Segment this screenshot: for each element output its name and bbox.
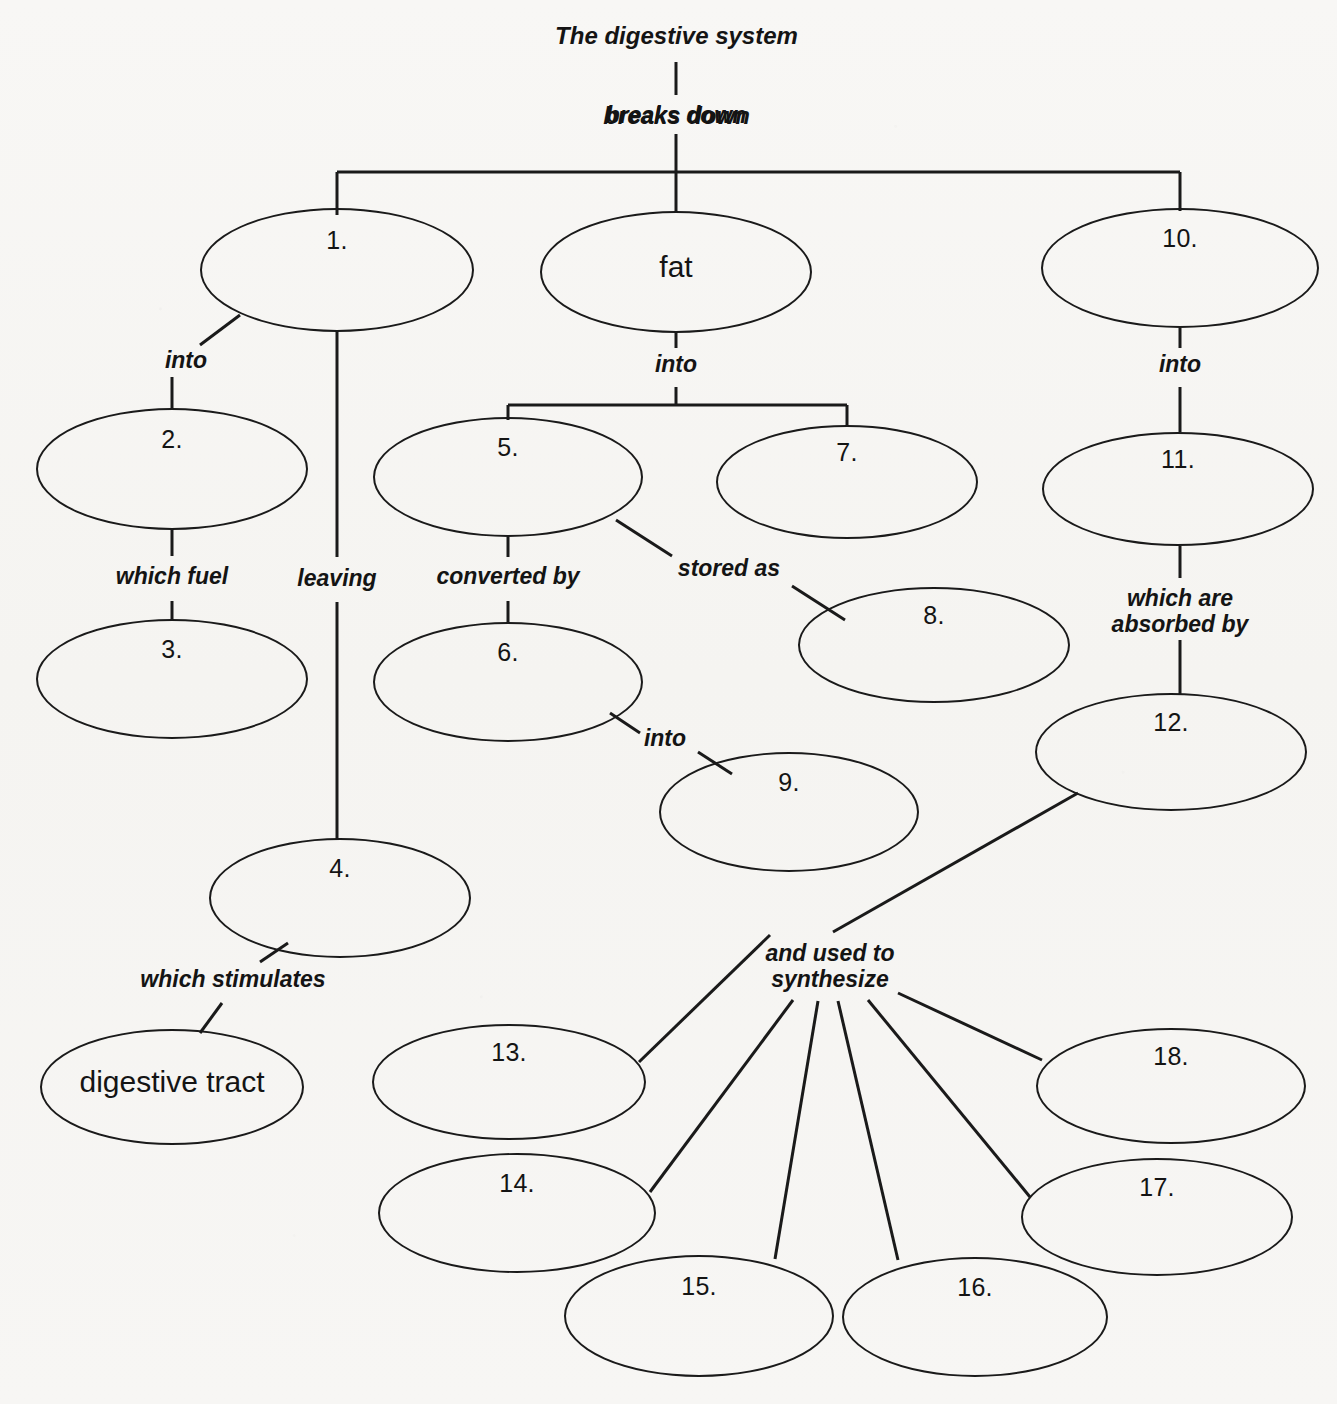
node-label-n14: 14. xyxy=(380,1169,654,1198)
root-title: The digestive system xyxy=(0,22,1337,50)
node-label-n10: 10. xyxy=(1043,224,1317,253)
link-label-l_stimulates: which stimulates xyxy=(140,967,325,993)
node-n12[interactable]: 12. xyxy=(1035,693,1307,811)
node-n10[interactable]: 10. xyxy=(1041,208,1319,328)
node-n11[interactable]: 11. xyxy=(1042,432,1314,546)
edge-hub-to-18 xyxy=(898,993,1042,1060)
node-label-n3: 3. xyxy=(38,635,306,664)
node-n6[interactable]: 6. xyxy=(373,622,643,742)
node-n17[interactable]: 17. xyxy=(1021,1158,1293,1276)
edge-hub-to-16 xyxy=(838,1001,898,1260)
link-label-l_leaving: leaving xyxy=(297,566,376,592)
node-label-n1: 1. xyxy=(202,226,472,255)
node-label-n11: 11. xyxy=(1044,445,1312,474)
node-label-n16: 16. xyxy=(844,1273,1106,1302)
link-label-l_into_10: into xyxy=(1159,352,1201,378)
node-label-n12: 12. xyxy=(1037,708,1305,737)
node-n16[interactable]: 16. xyxy=(842,1257,1108,1377)
concept-map-page: 2. : short diagonal off lower-left of el… xyxy=(0,0,1337,1404)
root-title-text: The digestive system xyxy=(555,22,798,50)
node-label-n17: 17. xyxy=(1023,1173,1291,1202)
node-label-n8: 8. xyxy=(800,601,1068,630)
link-label-l_which_fuel: which fuel xyxy=(116,564,228,590)
link-label-l_into_6: into xyxy=(644,726,686,752)
edge-5-stored-upper xyxy=(616,520,672,556)
node-label-dt: digestive tract xyxy=(42,1065,302,1099)
node-label-n9: 9. xyxy=(661,768,917,797)
node-label-n2: 2. xyxy=(38,425,306,454)
node-n15[interactable]: 15. xyxy=(564,1255,834,1377)
node-fat[interactable]: fat xyxy=(540,211,812,333)
node-label-n7: 7. xyxy=(718,438,976,467)
node-label-n18: 18. xyxy=(1038,1042,1304,1071)
link-label-l_converted: converted by xyxy=(436,564,579,590)
edge-stimulates-to-dt xyxy=(200,1003,222,1033)
link-label-l_into_1: into xyxy=(165,348,207,374)
node-n4[interactable]: 4. xyxy=(209,838,471,958)
node-n3[interactable]: 3. xyxy=(36,619,308,739)
node-n5[interactable]: 5. xyxy=(373,417,643,537)
node-label-n6: 6. xyxy=(375,638,641,667)
link-label-l_into_fat: into xyxy=(655,352,697,378)
link-label-l_synthesize: and used to synthesize xyxy=(765,941,894,993)
edge-hub-to-13 xyxy=(639,935,770,1062)
node-n18[interactable]: 18. xyxy=(1036,1028,1306,1144)
node-label-n4: 4. xyxy=(211,854,469,883)
link-label-l_stored_as: stored as xyxy=(678,556,780,582)
node-n7[interactable]: 7. xyxy=(716,425,978,539)
edge-hub-to-17 xyxy=(868,1000,1030,1197)
node-n14[interactable]: 14. xyxy=(378,1153,656,1273)
node-n8[interactable]: 8. xyxy=(798,587,1070,703)
node-n1[interactable]: 1. xyxy=(200,208,474,332)
link-label-l_absorbed: which are absorbed by xyxy=(1112,586,1249,638)
node-label-n13: 13. xyxy=(374,1038,644,1067)
node-n13[interactable]: 13. xyxy=(372,1024,646,1140)
node-label-n5: 5. xyxy=(375,433,641,462)
node-label-fat: fat xyxy=(542,250,810,284)
edge-1-into-label xyxy=(200,315,240,345)
node-n9[interactable]: 9. xyxy=(659,752,919,872)
node-dt[interactable]: digestive tract xyxy=(40,1029,304,1145)
node-n2[interactable]: 2. xyxy=(36,408,308,530)
node-label-n15: 15. xyxy=(566,1272,832,1301)
link-label-l_breaks_down: breaks down xyxy=(606,103,747,129)
edge-hub-to-15 xyxy=(775,1001,818,1259)
